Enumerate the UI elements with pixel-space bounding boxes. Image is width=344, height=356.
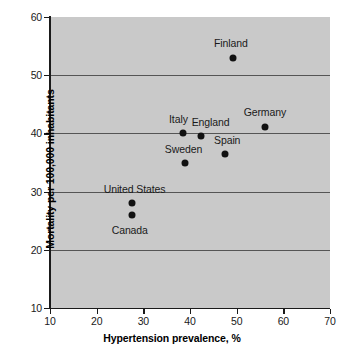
data-point-label: Germany <box>244 106 286 118</box>
data-point-label: Italy <box>169 113 188 125</box>
x-tick <box>330 309 331 314</box>
y-tick-label: 60 <box>20 11 42 23</box>
y-tick-label: 20 <box>20 244 42 256</box>
x-tick-label: 30 <box>129 315 157 327</box>
x-tick <box>143 309 144 314</box>
x-tick-label: 20 <box>83 315 111 327</box>
plot-area <box>50 17 330 308</box>
data-point-label: Sweden <box>165 143 202 155</box>
data-point <box>261 123 268 130</box>
gridline-y <box>50 192 330 193</box>
data-point-label: Spain <box>214 134 240 146</box>
gridline-y <box>50 133 330 134</box>
data-point <box>179 130 186 137</box>
data-point-label: Canada <box>112 224 148 236</box>
x-tick <box>97 309 98 314</box>
x-tick-label: 50 <box>223 315 251 327</box>
y-tick-label: 50 <box>20 69 42 81</box>
y-tick-label: 10 <box>20 302 42 314</box>
y-axis-title: Mortality per 100,000 inhabitants <box>44 39 56 299</box>
gridline-y <box>50 75 330 76</box>
data-point <box>222 151 229 158</box>
y-tick-label: 30 <box>20 186 42 198</box>
x-tick <box>237 309 238 314</box>
x-tick <box>190 309 191 314</box>
data-point <box>128 211 135 218</box>
y-tick-label: 40 <box>20 127 42 139</box>
data-point-label: England <box>192 116 230 128</box>
x-tick-label: 40 <box>176 315 204 327</box>
x-axis-title: Hypertension prevalence, % <box>0 332 344 344</box>
y-tick <box>44 308 50 309</box>
data-point <box>197 133 204 140</box>
data-point-label: Finland <box>214 37 248 49</box>
x-tick <box>50 309 51 314</box>
y-tick <box>44 17 50 18</box>
data-point-label: United States <box>104 183 166 195</box>
scatter-chart-figure: 10203040506070 102030405060 FinlandGerma… <box>0 0 344 356</box>
gridline-y <box>50 250 330 251</box>
data-point <box>229 54 236 61</box>
x-tick <box>283 309 284 314</box>
data-point <box>182 159 189 166</box>
x-tick-label: 10 <box>36 315 64 327</box>
x-tick-label: 60 <box>269 315 297 327</box>
x-tick-label: 70 <box>316 315 344 327</box>
data-point <box>128 200 135 207</box>
